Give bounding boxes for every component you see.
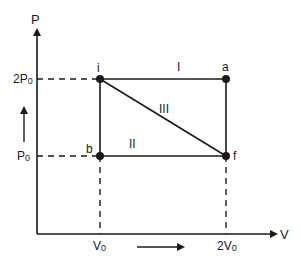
point-label-i: i bbox=[97, 61, 100, 75]
x-axis-label: V bbox=[280, 227, 289, 242]
path-label-III: III bbox=[159, 102, 169, 116]
point-label-f: f bbox=[233, 149, 237, 163]
x-tick-v0: V0 bbox=[93, 239, 106, 253]
y-axis-label: P bbox=[31, 12, 40, 27]
pv-diagram: P V i a b f I II III 2P0 P0 V0 2V0 bbox=[0, 0, 300, 262]
path-i-to-f bbox=[100, 79, 226, 156]
point-label-a: a bbox=[222, 60, 229, 74]
point-b bbox=[96, 152, 104, 160]
point-label-b: b bbox=[86, 142, 93, 156]
point-i bbox=[96, 75, 104, 83]
path-label-I: I bbox=[177, 60, 180, 74]
y-tick-2p0: 2P0 bbox=[13, 72, 33, 86]
x-tick-2v0: 2V0 bbox=[217, 239, 237, 253]
y-tick-p0: P0 bbox=[17, 149, 30, 163]
path-label-II: II bbox=[129, 137, 136, 151]
point-a bbox=[222, 75, 230, 83]
point-f bbox=[222, 152, 230, 160]
